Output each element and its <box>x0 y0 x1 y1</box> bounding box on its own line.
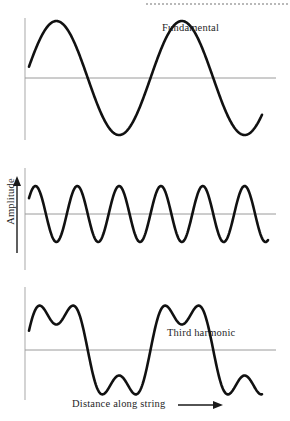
y-axis-label: Amplitude <box>5 170 16 234</box>
third-harmonic-wave-plot <box>0 150 290 280</box>
label-fundamental: Fundamental <box>162 22 219 33</box>
wave-superposition-figure: Fundamental Third harmonic Composite Amp… <box>0 0 290 421</box>
panel-third-harmonic: Third harmonic <box>0 150 290 280</box>
arrow-right-icon <box>178 398 224 412</box>
fundamental-wave-plot <box>0 0 290 150</box>
x-axis-label: Distance along string <box>72 398 165 409</box>
panel-fundamental: Fundamental <box>0 0 290 150</box>
